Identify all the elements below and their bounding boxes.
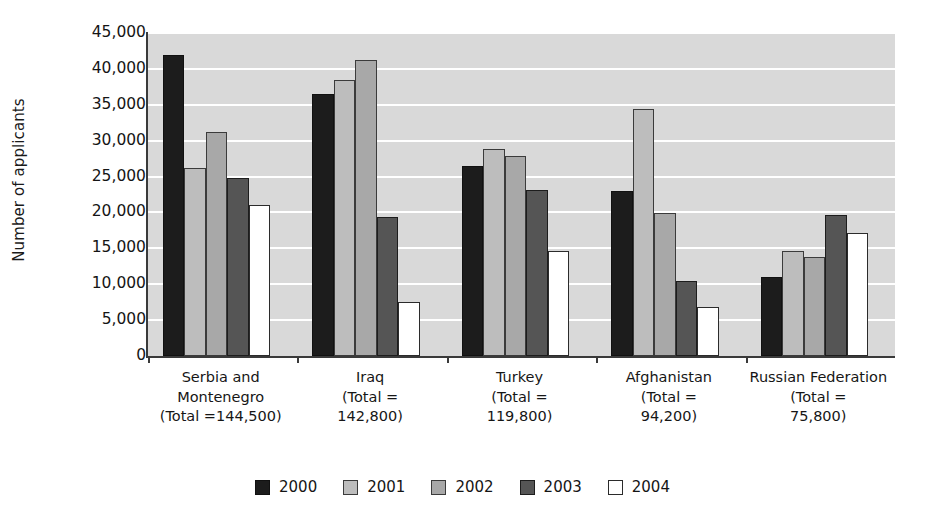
legend-item[interactable]: 2003 bbox=[520, 478, 582, 496]
bar bbox=[462, 166, 484, 356]
legend-item[interactable]: 2000 bbox=[255, 478, 317, 496]
bar bbox=[676, 281, 698, 356]
y-axis-tick-label: 10,000 bbox=[50, 276, 146, 292]
legend-swatch-icon bbox=[343, 480, 358, 495]
y-axis-tick-label: 40,000 bbox=[50, 61, 146, 77]
gridline bbox=[148, 140, 895, 142]
x-axis-category-labels: Serbia andMontenegro(Total =144,500)Iraq… bbox=[146, 368, 893, 444]
x-axis-category-label: Serbia andMontenegro(Total =144,500) bbox=[146, 368, 295, 427]
bar bbox=[697, 307, 719, 356]
legend-item[interactable]: 2002 bbox=[431, 478, 493, 496]
bar bbox=[825, 215, 847, 356]
bar bbox=[227, 178, 249, 356]
y-axis-tick-label: 5,000 bbox=[50, 312, 146, 328]
x-axis-label-line: Afghanistan bbox=[594, 368, 743, 388]
x-axis-label-line: 142,800) bbox=[295, 407, 444, 427]
legend-label: 2002 bbox=[455, 478, 493, 496]
bar bbox=[611, 191, 633, 356]
y-axis-tick-label: 0 bbox=[50, 348, 146, 364]
gridline bbox=[148, 32, 895, 34]
bar bbox=[483, 149, 505, 356]
bar bbox=[761, 277, 783, 356]
y-axis-tick-label: 45,000 bbox=[50, 25, 146, 41]
legend-swatch-icon bbox=[255, 480, 270, 495]
x-axis-label-line: Montenegro bbox=[146, 388, 295, 408]
x-axis-group-tick bbox=[148, 356, 150, 363]
bar bbox=[334, 80, 356, 356]
legend-swatch-icon bbox=[431, 480, 446, 495]
x-axis-label-line: (Total = bbox=[744, 388, 893, 408]
legend-label: 2003 bbox=[544, 478, 582, 496]
x-axis-label-line: Russian Federation bbox=[744, 368, 893, 388]
legend: 20002001200220032004 bbox=[0, 478, 925, 496]
bar bbox=[654, 213, 676, 356]
legend-swatch-icon bbox=[608, 480, 623, 495]
legend-swatch-icon bbox=[520, 480, 535, 495]
bar bbox=[312, 94, 334, 356]
x-axis-label-line: 75,800) bbox=[744, 407, 893, 427]
bar bbox=[377, 217, 399, 356]
x-axis-label-line: Iraq bbox=[295, 368, 444, 388]
plot-area bbox=[146, 33, 895, 358]
bar bbox=[526, 190, 548, 356]
y-axis-title-text: Number of applicants bbox=[10, 98, 28, 261]
legend-label: 2000 bbox=[279, 478, 317, 496]
y-axis-tick-label: 30,000 bbox=[50, 133, 146, 149]
bar-chart-figure: Number of applicants 05,00010,00015,0002… bbox=[0, 0, 925, 519]
bar bbox=[249, 205, 271, 356]
y-axis-ticks: 05,00010,00015,00020,00025,00030,00035,0… bbox=[36, 0, 146, 519]
x-axis-group-tick bbox=[596, 356, 598, 363]
bar bbox=[355, 60, 377, 356]
legend-item[interactable]: 2004 bbox=[608, 478, 670, 496]
gridline bbox=[148, 68, 895, 70]
y-axis-tick-label: 20,000 bbox=[50, 205, 146, 221]
bar bbox=[505, 156, 527, 356]
x-axis-label-line: 119,800) bbox=[445, 407, 594, 427]
x-axis-label-line: Serbia and bbox=[146, 368, 295, 388]
bar bbox=[548, 251, 570, 356]
bar bbox=[206, 132, 228, 356]
gridline bbox=[148, 104, 895, 106]
bar bbox=[184, 168, 206, 356]
legend-label: 2001 bbox=[367, 478, 405, 496]
x-axis-label-line: (Total = bbox=[594, 388, 743, 408]
y-axis-tick-label: 25,000 bbox=[50, 169, 146, 185]
x-axis-label-line: (Total =144,500) bbox=[146, 407, 295, 427]
bar bbox=[633, 109, 655, 356]
legend-label: 2004 bbox=[632, 478, 670, 496]
y-axis-tick-label: 15,000 bbox=[50, 241, 146, 257]
bar bbox=[847, 233, 869, 356]
x-axis-group-tick bbox=[297, 356, 299, 363]
x-axis-label-line: (Total = bbox=[295, 388, 444, 408]
y-axis-tick-label: 35,000 bbox=[50, 97, 146, 113]
x-axis-label-line: 94,200) bbox=[594, 407, 743, 427]
x-axis-category-label: Turkey(Total =119,800) bbox=[445, 368, 594, 427]
x-axis-category-label: Afghanistan(Total =94,200) bbox=[594, 368, 743, 427]
bar bbox=[782, 251, 804, 357]
x-axis-category-label: Iraq(Total =142,800) bbox=[295, 368, 444, 427]
bar bbox=[398, 302, 420, 356]
y-axis-title: Number of applicants bbox=[2, 0, 36, 360]
x-axis-label-line: (Total = bbox=[445, 388, 594, 408]
x-axis-group-tick bbox=[447, 356, 449, 363]
legend-item[interactable]: 2001 bbox=[343, 478, 405, 496]
x-axis-label-line: Turkey bbox=[445, 368, 594, 388]
bar bbox=[804, 257, 826, 356]
x-axis-category-label: Russian Federation(Total =75,800) bbox=[744, 368, 893, 427]
x-axis-group-tick bbox=[746, 356, 748, 363]
bar bbox=[163, 55, 185, 356]
